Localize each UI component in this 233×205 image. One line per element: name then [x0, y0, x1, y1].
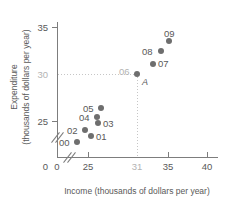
- y-tick-35: [52, 27, 58, 28]
- data-point-label-08: 08: [142, 46, 153, 57]
- data-point-label-09: 09: [164, 28, 175, 39]
- x-tick-label-25: 25: [76, 161, 100, 172]
- data-point-02: [82, 127, 88, 133]
- x-tick-35: [168, 152, 169, 158]
- data-point-03: [95, 120, 101, 126]
- data-point-05: [98, 105, 104, 111]
- data-point-07: [150, 61, 156, 67]
- x-tick-label-31: 31: [125, 161, 149, 172]
- data-point-00: [74, 139, 80, 145]
- data-point-label-02: 02: [67, 125, 78, 136]
- data-point-label-03: 03: [103, 118, 114, 129]
- data-point-label-07: 07: [158, 58, 169, 69]
- x-axis-caption: Income (thousands of dollars per year): [42, 186, 232, 196]
- data-point-annotation-a: A: [142, 77, 148, 87]
- data-point-label-06: 06: [119, 66, 130, 77]
- y-axis-caption: Expenditure (thousands of dollars per ye…: [8, 12, 32, 162]
- data-point-08: [158, 48, 164, 54]
- data-point-label-01: 01: [96, 131, 107, 142]
- scatter-chart: 35 30 25 0 0 25 31 35 40 00 01 02 03 04 …: [0, 0, 233, 205]
- y-axis-caption-line2: (thousands of dollars per year): [20, 12, 32, 162]
- data-point-06: [134, 71, 140, 77]
- data-point-01: [88, 133, 94, 139]
- guide-line-vertical: [137, 74, 138, 157]
- x-tick-25: [88, 152, 89, 158]
- data-point-label-05: 05: [83, 103, 94, 114]
- data-point-label-00: 00: [59, 137, 70, 148]
- x-axis-line: [57, 157, 218, 158]
- y-tick-25: [52, 121, 58, 122]
- data-point-04: [94, 114, 100, 120]
- y-axis-caption-line1: Expenditure: [8, 12, 20, 162]
- x-tick-label-0: 0: [45, 161, 69, 172]
- x-tick-label-35: 35: [156, 161, 180, 172]
- x-tick-label-40: 40: [195, 161, 219, 172]
- x-tick-40: [207, 152, 208, 158]
